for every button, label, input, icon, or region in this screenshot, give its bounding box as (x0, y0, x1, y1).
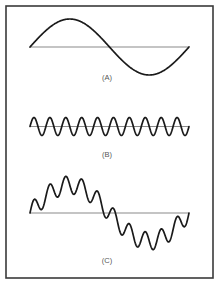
panel-b-sine-wave (30, 118, 189, 136)
panel-b: (B) (30, 118, 189, 160)
panel-a: (A) (30, 19, 189, 82)
panel-b-label: (B) (102, 150, 113, 159)
waveform-figure: (A) (B) (C) (0, 0, 217, 285)
panel-c-label: (C) (102, 256, 113, 265)
panel-a-label: (A) (102, 73, 113, 82)
panel-c: (C) (30, 176, 189, 265)
